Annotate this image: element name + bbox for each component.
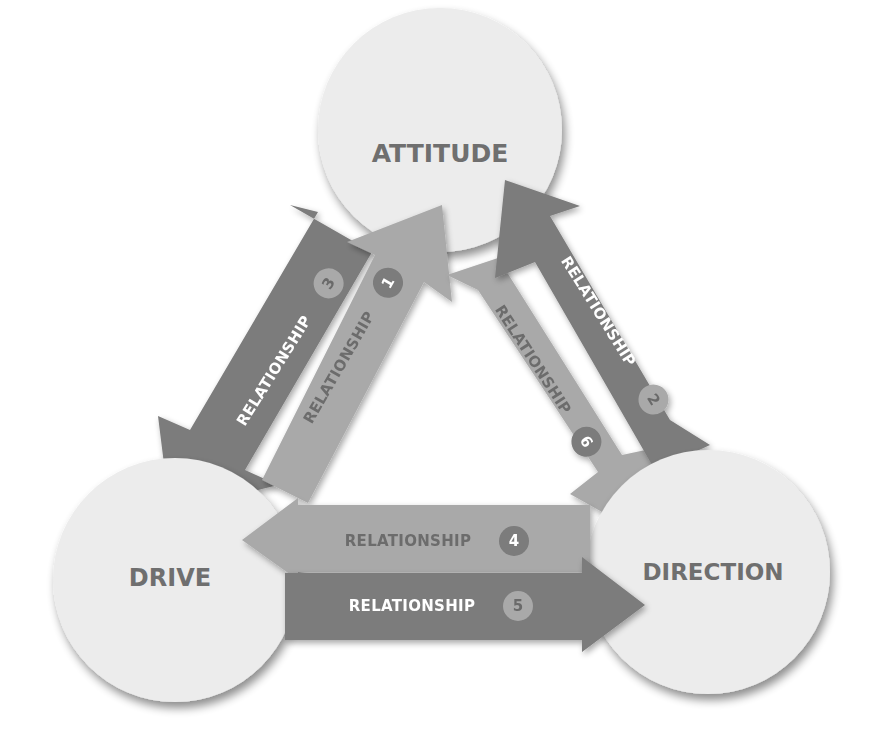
relationship-triangle-diagram: ATTITUDE RELATIONSHIP 3 RELATIONSHIP 1 R… [0, 0, 880, 737]
direction-label: DIRECTION [643, 559, 784, 585]
attitude-label: ATTITUDE [372, 139, 509, 168]
arrow-relationship-4: RELATIONSHIP 4 [242, 498, 590, 580]
node-direction: DIRECTION [586, 450, 830, 694]
badge-5-number: 5 [513, 597, 523, 615]
node-drive: DRIVE [53, 458, 297, 702]
badge-4-number: 4 [509, 532, 519, 550]
drive-label: DRIVE [129, 564, 211, 592]
relationship-5-label: RELATIONSHIP [349, 597, 475, 615]
relationship-4-label: RELATIONSHIP [345, 532, 471, 550]
